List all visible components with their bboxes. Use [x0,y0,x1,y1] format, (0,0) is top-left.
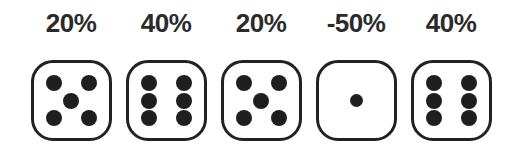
die-cell: -50% [316,8,397,141]
die-face [126,60,207,141]
dice-row: 20%40%20%-50%40% [0,0,522,154]
die-pip-icon [176,110,192,126]
die-pip-icon [461,75,477,91]
die-pip-icon [350,94,363,107]
die-pip-icon [271,110,287,126]
die-face [316,60,397,141]
die-face [411,60,492,141]
die-pip-icon [141,110,157,126]
die-pip-icon [236,75,252,91]
die-pip-icon [46,110,62,126]
die-pip-icon [63,93,79,109]
die-pip-icon [426,75,442,91]
die-pip-icon [271,75,287,91]
die-pip-icon [46,75,62,91]
die-face [221,60,302,141]
die-pip-icon [176,93,192,109]
die-percentage-label: 20% [236,8,287,38]
dice-percentage-figure: 20%40%20%-50%40% [0,0,522,154]
die-pip-icon [176,75,192,91]
die-cell: 20% [31,8,112,141]
die-pip-icon [461,93,477,109]
die-cell: 40% [126,8,207,141]
die-pip-icon [81,110,97,126]
die-percentage-label: 40% [426,8,477,38]
die-pip-icon [253,93,269,109]
die-percentage-label: 40% [141,8,192,38]
die-pip-icon [141,75,157,91]
die-percentage-label: 20% [46,8,97,38]
die-face [31,60,112,141]
die-pip-icon [141,93,157,109]
die-percentage-label: -50% [327,8,386,38]
die-pip-icon [81,75,97,91]
die-cell: 40% [411,8,492,141]
die-cell: 20% [221,8,302,141]
die-pip-icon [236,110,252,126]
die-pip-icon [426,93,442,109]
die-pip-icon [461,110,477,126]
die-pip-icon [426,110,442,126]
